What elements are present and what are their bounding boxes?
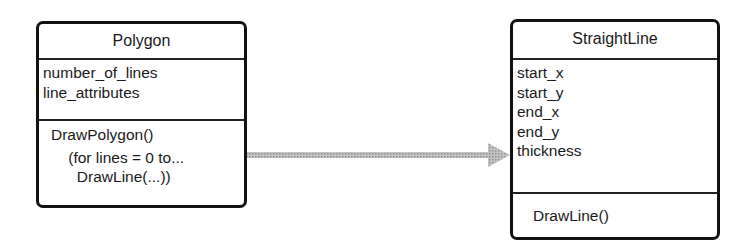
attributes-compartment: number_of_lines line_attributes	[39, 60, 244, 121]
operation: DrawLine()	[533, 206, 717, 226]
class-box-straightline: StraightLine start_x start_y end_x end_y…	[510, 19, 720, 240]
class-box-polygon: Polygon number_of_lines line_attributes …	[36, 21, 247, 208]
operation-note: (for lines = 0 to...	[51, 148, 244, 168]
attribute: end_x	[517, 102, 717, 122]
operation: DrawPolygon()	[51, 125, 244, 145]
class-name: StraightLine	[513, 22, 717, 60]
attribute: start_x	[517, 63, 717, 83]
operations-compartment: DrawPolygon() (for lines = 0 to... DrawL…	[39, 121, 244, 187]
attribute: line_attributes	[43, 83, 244, 103]
class-name: Polygon	[39, 24, 244, 60]
attributes-compartment: start_x start_y end_x end_y thickness	[513, 60, 717, 194]
attribute: end_y	[517, 122, 717, 142]
operation-note: DrawLine(...))	[51, 167, 244, 187]
operations-compartment: DrawLine()	[513, 194, 717, 226]
attribute: start_y	[517, 83, 717, 103]
attribute: thickness	[517, 141, 717, 161]
attribute: number_of_lines	[43, 63, 244, 83]
